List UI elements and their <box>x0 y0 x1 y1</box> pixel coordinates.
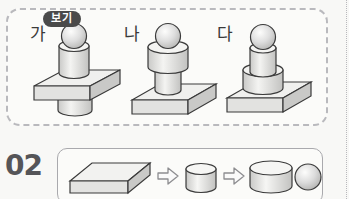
figure-da[interactable]: 다 <box>213 10 313 128</box>
seq-shape-cylinder-small <box>186 164 216 193</box>
figure-da-drawing <box>213 10 331 128</box>
question-number: 02 <box>5 152 42 180</box>
example-badge: 보기 <box>43 11 81 27</box>
figure-ga[interactable]: 가 <box>26 10 126 128</box>
arrow-right-icon <box>158 168 178 184</box>
worksheet-page: 보기 가 <box>0 0 349 199</box>
question-panel <box>57 148 323 199</box>
seq-shape-box <box>70 163 150 193</box>
page-edge-dotted-rule <box>346 0 347 199</box>
example-panel: 보기 가 <box>6 8 328 126</box>
seq-shape-sphere <box>295 164 321 190</box>
seq-shape-cylinder-large <box>250 161 292 193</box>
figure-na[interactable]: 나 <box>120 10 220 128</box>
figure-row: 가 <box>8 10 326 128</box>
shape-sequence <box>58 149 324 199</box>
arrow-right-icon <box>224 168 244 184</box>
